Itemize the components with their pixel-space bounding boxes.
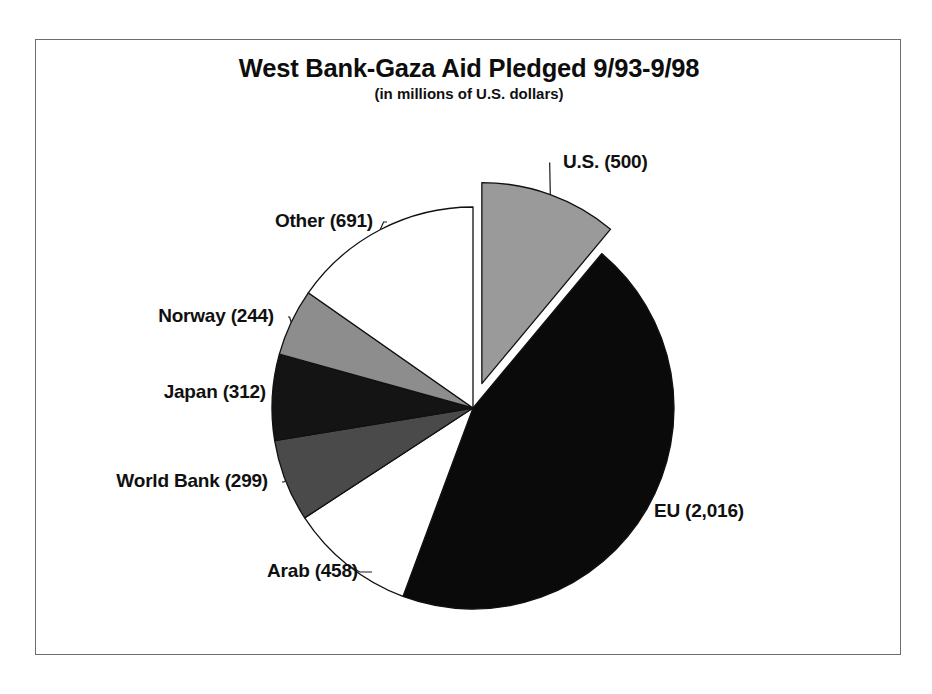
pie-label-eu: EU (2,016): [654, 500, 744, 522]
leader-line-norway: [288, 317, 291, 322]
pie-label-norway: Norway (244): [36, 305, 274, 327]
figure-root: West Bank-Gaza Aid Pledged 9/93-9/98 (in…: [0, 0, 932, 694]
pie-slices-group: [272, 183, 674, 609]
leader-line-us: [549, 163, 550, 195]
pie-label-us: U.S. (500): [563, 151, 648, 173]
pie-label-arab: Arab (458): [36, 560, 358, 582]
pie-label-japan: Japan (312): [36, 381, 266, 403]
leader-line-world-bank: [282, 481, 286, 482]
pie-label-world-bank: World Bank (299): [36, 470, 268, 492]
pie-label-other: Other (691): [36, 210, 373, 232]
chart-frame: West Bank-Gaza Aid Pledged 9/93-9/98 (in…: [35, 39, 901, 655]
